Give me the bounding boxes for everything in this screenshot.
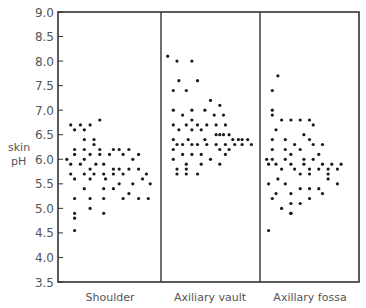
category-label-axillary-vault: Axiliary vault: [174, 291, 247, 304]
data-point: [280, 118, 283, 121]
data-point: [122, 153, 125, 156]
data-point: [271, 148, 274, 151]
data-point: [141, 177, 144, 180]
data-point: [213, 114, 216, 117]
data-point: [102, 197, 105, 200]
data-point: [274, 192, 277, 195]
data-point: [137, 153, 140, 156]
y-tick-label: 9.0: [35, 6, 54, 20]
data-point: [118, 148, 121, 151]
data-point: [284, 182, 287, 185]
data-point: [172, 138, 175, 141]
data-point: [98, 153, 101, 156]
data-point: [94, 163, 97, 166]
data-point: [233, 143, 236, 146]
y-tick-label: 4.0: [35, 251, 54, 265]
data-point: [69, 172, 72, 175]
data-point: [224, 143, 227, 146]
data-point: [73, 153, 76, 156]
data-point: [104, 177, 107, 180]
data-point: [317, 168, 320, 171]
data-point: [228, 148, 231, 151]
data-point: [190, 128, 193, 131]
data-point: [271, 89, 274, 92]
data-point: [218, 163, 221, 166]
data-point: [321, 143, 324, 146]
data-point: [317, 153, 320, 156]
y-axis-title: skin pH: [8, 141, 30, 168]
data-point: [92, 138, 95, 141]
data-point: [231, 138, 234, 141]
data-point: [181, 153, 184, 156]
category-label-axillary-fossa: Axillary fossa: [273, 291, 346, 304]
data-points: [65, 55, 343, 232]
y-tick-label: 8.0: [35, 55, 54, 69]
data-point: [308, 197, 311, 200]
data-point: [222, 114, 225, 117]
data-point: [289, 153, 292, 156]
data-point: [127, 148, 130, 151]
data-point: [190, 143, 193, 146]
data-point: [250, 143, 253, 146]
data-point: [308, 138, 311, 141]
data-point: [185, 123, 188, 126]
data-point: [102, 212, 105, 215]
data-point: [83, 158, 86, 161]
data-point: [83, 148, 86, 151]
data-point: [274, 163, 277, 166]
data-point: [222, 133, 225, 136]
data-point: [149, 182, 152, 185]
data-point: [274, 128, 277, 131]
data-point: [299, 148, 302, 151]
data-point: [185, 163, 188, 166]
data-point: [69, 123, 72, 126]
data-point: [308, 187, 311, 190]
data-point: [185, 172, 188, 175]
data-point: [312, 143, 315, 146]
data-point: [289, 118, 292, 121]
data-point: [175, 168, 178, 171]
plot-border: [58, 12, 359, 282]
data-point: [203, 109, 206, 112]
data-point: [205, 123, 208, 126]
data-point: [137, 168, 140, 171]
data-point: [118, 168, 121, 171]
plot-frame: [58, 12, 359, 282]
data-point: [276, 74, 279, 77]
data-point: [215, 133, 218, 136]
data-point: [190, 118, 193, 121]
data-point: [73, 148, 76, 151]
data-point: [175, 143, 178, 146]
data-point: [308, 172, 311, 175]
data-point: [312, 123, 315, 126]
data-point: [73, 177, 76, 180]
data-point: [321, 163, 324, 166]
data-point: [112, 187, 115, 190]
data-point: [73, 212, 76, 215]
data-point: [79, 163, 82, 166]
data-point: [127, 192, 130, 195]
data-point: [312, 158, 315, 161]
data-point: [92, 143, 95, 146]
data-point: [289, 192, 292, 195]
data-point: [203, 138, 206, 141]
data-point: [79, 123, 82, 126]
data-point: [118, 182, 121, 185]
data-point: [299, 172, 302, 175]
data-point: [185, 89, 188, 92]
x-axis-categories: Shoulder Axiliary vault Axillary fossa: [86, 291, 347, 304]
data-point: [280, 207, 283, 210]
data-point: [172, 109, 175, 112]
data-point: [200, 128, 203, 131]
skin-ph-scatter-chart: 3.54.04.55.05.56.06.57.07.58.08.59.0 ski…: [0, 0, 366, 308]
data-point: [89, 153, 92, 156]
data-point: [289, 212, 292, 215]
y-tick-label: 5.5: [35, 177, 54, 191]
y-tick-label: 7.0: [35, 104, 54, 118]
data-point: [92, 172, 95, 175]
data-point: [112, 148, 115, 151]
data-point: [83, 128, 86, 131]
data-point: [241, 143, 244, 146]
data-point: [302, 133, 305, 136]
y-tick-label: 6.0: [35, 153, 54, 167]
